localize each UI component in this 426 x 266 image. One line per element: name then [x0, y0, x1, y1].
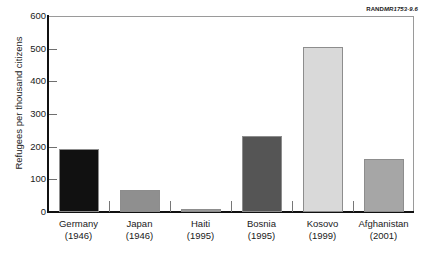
category-name: Bosnia [247, 218, 276, 229]
x-axis-label-japan: Japan(1946) [109, 218, 170, 241]
category-year: (1946) [48, 230, 109, 242]
x-axis-label-haiti: Haiti(1995) [170, 218, 231, 241]
category-name: Germany [59, 218, 98, 229]
bar-chart-figure: RANDMR1753-9.6 Refugees per thousand cit… [0, 0, 426, 266]
category-name: Kosovo [307, 218, 339, 229]
bar-series [48, 16, 414, 212]
bar-bosnia [242, 136, 282, 212]
category-year: (1995) [231, 230, 292, 242]
y-axis-tick-label: 500 [6, 44, 46, 54]
document-id: MR1753-9.6 [384, 6, 418, 12]
category-name: Japan [127, 218, 153, 229]
x-axis-label-kosovo: Kosovo(1999) [292, 218, 353, 241]
y-axis-tick-label: 200 [6, 142, 46, 152]
category-year: (1995) [170, 230, 231, 242]
y-axis-tick-label: 100 [6, 174, 46, 184]
bar-afghanistan [364, 159, 404, 212]
x-axis-label-germany: Germany(1946) [48, 218, 109, 241]
y-axis-tick-label: 0 [6, 207, 46, 217]
y-axis-tick-label: 400 [6, 76, 46, 86]
bar-germany [59, 149, 99, 212]
category-year: (2001) [353, 230, 414, 242]
x-axis-label-bosnia: Bosnia(1995) [231, 218, 292, 241]
category-name: Haiti [191, 218, 210, 229]
rand-logo-text: RAND [366, 6, 384, 12]
category-name: Afghanistan [358, 218, 408, 229]
y-axis-tick-label: 600 [6, 11, 46, 21]
category-year: (1999) [292, 230, 353, 242]
bar-haiti [181, 209, 221, 212]
bar-kosovo [303, 47, 343, 212]
x-axis-label-afghanistan: Afghanistan(2001) [353, 218, 414, 241]
category-year: (1946) [109, 230, 170, 242]
bar-japan [120, 190, 160, 212]
y-axis-tick-label: 300 [6, 109, 46, 119]
source-credit: RANDMR1753-9.6 [366, 5, 418, 13]
